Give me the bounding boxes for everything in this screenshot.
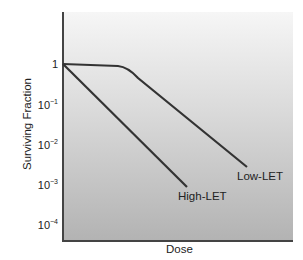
high-let-curve <box>63 64 187 187</box>
low-let-label: Low-LET <box>237 170 283 182</box>
high-let-label: High-LET <box>178 190 227 202</box>
low-let-curve <box>63 64 247 167</box>
curves <box>0 0 303 260</box>
